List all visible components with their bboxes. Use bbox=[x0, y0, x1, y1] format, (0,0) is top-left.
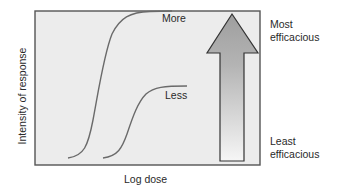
curve-label-more: More bbox=[162, 12, 186, 24]
y-axis-label: Intensity of response bbox=[16, 36, 28, 156]
curve-label-less: Less bbox=[165, 89, 187, 101]
x-axis-label: Log dose bbox=[124, 173, 167, 185]
least-efficacious-label: Least efficacious bbox=[270, 135, 319, 160]
most-efficacious-label: Most efficacious bbox=[270, 18, 319, 43]
least-label-line2: efficacious bbox=[270, 148, 319, 161]
most-label-line2: efficacious bbox=[270, 31, 319, 44]
most-label-line1: Most bbox=[270, 18, 319, 31]
least-label-line1: Least bbox=[270, 135, 319, 148]
